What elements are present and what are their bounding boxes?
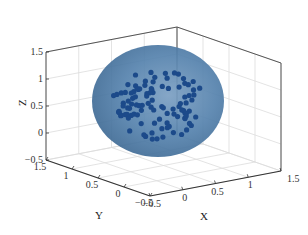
data-point: [139, 108, 144, 113]
data-point: [150, 137, 155, 142]
data-point: [152, 75, 157, 80]
data-point: [139, 121, 144, 126]
data-point: [167, 124, 172, 129]
data-point: [161, 105, 166, 110]
data-point: [175, 114, 180, 119]
x-tick-label: 0.5: [211, 186, 224, 197]
data-point: [149, 130, 154, 135]
data-point: [160, 135, 165, 140]
data-point: [179, 132, 184, 137]
data-point: [127, 106, 132, 111]
data-point: [163, 71, 168, 76]
z-tick-label: 0.5: [31, 100, 44, 111]
data-point: [159, 126, 164, 131]
data-point: [191, 87, 196, 92]
data-point: [149, 86, 154, 91]
data-point: [189, 97, 194, 102]
data-point: [124, 112, 129, 117]
x-tick-label: 1.5: [287, 173, 300, 184]
z-tick-label: 1.5: [31, 46, 44, 57]
data-point: [137, 103, 142, 108]
data-point: [166, 86, 171, 91]
data-point: [187, 121, 192, 126]
y-tick-label: 0.5: [86, 179, 99, 190]
data-point: [193, 114, 198, 119]
data-point: [171, 130, 176, 135]
data-point: [186, 82, 191, 87]
x-tick-label: 1: [248, 179, 253, 190]
data-point: [157, 117, 162, 122]
data-point: [187, 93, 192, 98]
data-point: [127, 128, 132, 133]
data-point: [184, 100, 189, 105]
data-point: [160, 84, 165, 89]
data-point: [197, 86, 202, 91]
z-tick-label: 0: [38, 127, 43, 138]
scatter-3d-chart: −0.500.511.5−0.500.511.5−0.500.511.5 Z Y…: [0, 0, 308, 235]
data-point: [141, 132, 146, 137]
data-point: [142, 83, 147, 88]
data-point: [177, 85, 182, 90]
x-axis-label: X: [200, 210, 208, 222]
data-point: [171, 107, 176, 112]
data-point: [179, 107, 184, 112]
x-tick-label: −0.5: [143, 198, 161, 209]
data-point: [116, 109, 121, 114]
data-point: [125, 82, 130, 87]
y-axis-label: Y: [95, 209, 103, 221]
data-point: [172, 70, 177, 75]
data-point: [151, 107, 156, 112]
y-tick-label: 0: [116, 188, 121, 199]
data-point: [133, 94, 138, 99]
data-point: [135, 86, 140, 91]
data-point: [133, 72, 138, 77]
data-point: [111, 93, 116, 98]
data-point: [191, 92, 196, 97]
data-point: [121, 103, 126, 108]
data-point: [148, 70, 153, 75]
data-point: [152, 121, 157, 126]
x-tick-label: 0: [182, 192, 187, 203]
data-point: [181, 76, 186, 81]
data-point: [129, 90, 134, 95]
data-point: [165, 111, 170, 116]
data-point: [184, 113, 189, 118]
y-tick-label: 1: [64, 170, 69, 181]
z-axis-label: Z: [16, 99, 28, 106]
y-tick-label: 1.5: [34, 161, 47, 172]
data-point: [184, 127, 189, 132]
data-point: [165, 76, 170, 81]
data-point: [151, 79, 156, 84]
data-point: [178, 101, 183, 106]
data-point: [154, 136, 159, 141]
z-tick-label: 1: [38, 73, 43, 84]
data-point: [191, 79, 196, 84]
data-point: [144, 94, 149, 99]
data-point: [123, 90, 128, 95]
data-point: [135, 112, 140, 117]
plot-area: −0.500.511.5−0.500.511.5−0.500.511.5 Z Y…: [0, 0, 308, 235]
